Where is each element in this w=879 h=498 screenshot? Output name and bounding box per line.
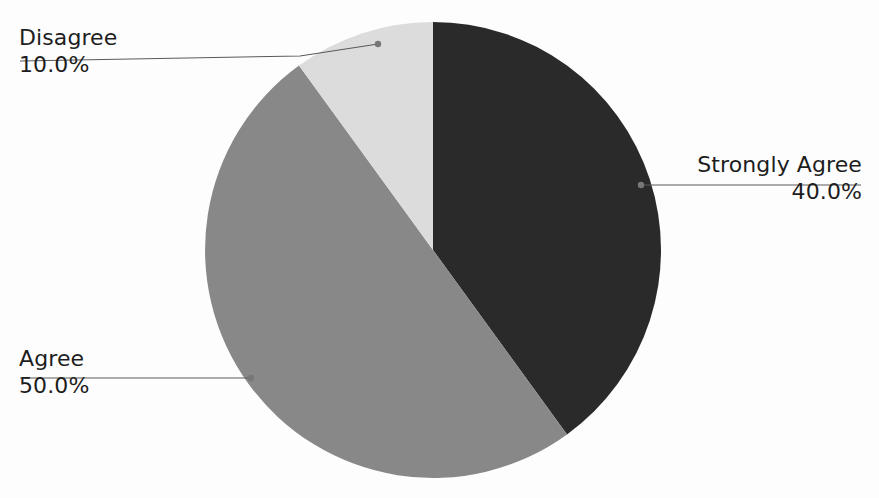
pie-label-strongly-agree-value: 40.0% bbox=[697, 178, 862, 205]
pie-label-disagree: Disagree 10.0% bbox=[19, 24, 117, 78]
pie-label-disagree-value: 10.0% bbox=[19, 51, 117, 78]
pie-label-strongly-agree: Strongly Agree 40.0% bbox=[697, 151, 862, 205]
pie-label-strongly-agree-name: Strongly Agree bbox=[697, 151, 862, 178]
pie-label-agree-value: 50.0% bbox=[19, 372, 89, 399]
pie-label-agree-name: Agree bbox=[19, 345, 89, 372]
pie-chart-figure: Disagree 10.0% Agree 50.0% Strongly Agre… bbox=[0, 0, 879, 498]
leader-dot-disagree bbox=[375, 41, 381, 47]
pie-chart-canvas bbox=[0, 0, 879, 498]
leader-dot-strongly-agree bbox=[638, 182, 644, 188]
pie-label-disagree-name: Disagree bbox=[19, 24, 117, 51]
leader-dot-agree bbox=[248, 375, 254, 381]
pie-label-agree: Agree 50.0% bbox=[19, 345, 89, 399]
